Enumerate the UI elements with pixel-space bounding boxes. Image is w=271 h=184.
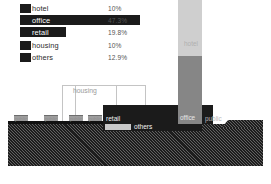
legend-swatch-icon — [20, 16, 31, 25]
housing-label: housing — [73, 87, 97, 94]
legend-swatch-icon — [20, 4, 31, 13]
program-legend: hotel 10% office 47.3% retail 19.8% — [20, 3, 142, 64]
legend-percent: 10% — [108, 40, 122, 51]
legend-row[interactable]: office 47.3% — [20, 15, 142, 26]
section-diagram: housing public public public public reta… — [0, 58, 271, 184]
legend-percent: 10% — [108, 3, 122, 14]
legend-row[interactable]: retail 19.8% — [20, 27, 142, 38]
legend-row[interactable]: housing 10% — [20, 40, 142, 51]
legend-swatch-icon — [20, 41, 31, 50]
public-plinth-label: public — [89, 117, 101, 122]
legend-label: office — [32, 15, 52, 26]
legend-label: retail — [32, 27, 51, 38]
retail-label: retail — [106, 115, 120, 122]
legend-percent: 19.8% — [108, 27, 127, 38]
tower-hotel-volume — [178, 0, 202, 56]
others-chip — [105, 124, 131, 130]
legend-percent: 47.3% — [108, 15, 127, 26]
public-plinth-label: public — [15, 117, 27, 122]
legend-swatch-icon — [20, 53, 31, 62]
public-plinth-label: public — [45, 117, 57, 122]
legend-label: hotel — [32, 3, 51, 14]
tower-hotel-label: hotel — [180, 40, 202, 47]
diagram-page: hotel 10% office 47.3% retail 19.8% — [0, 0, 271, 184]
others-label: others — [134, 123, 152, 130]
legend-swatch-icon — [20, 28, 31, 37]
public-plinth-label: public — [70, 117, 82, 122]
legend-label: others — [32, 52, 55, 63]
legend-label: housing — [32, 40, 61, 51]
legend-row[interactable]: hotel 10% — [20, 3, 142, 14]
tower-office-label: office — [180, 114, 195, 121]
public-label: public — [205, 115, 222, 122]
